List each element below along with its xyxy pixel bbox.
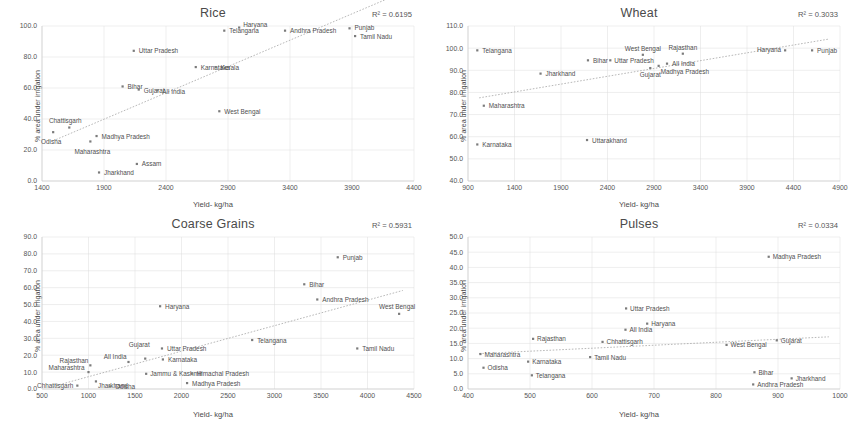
data-point[interactable] bbox=[144, 358, 146, 360]
data-point[interactable] bbox=[752, 383, 754, 385]
data-point[interactable] bbox=[646, 323, 648, 325]
data-point-label: Punjab bbox=[817, 47, 837, 55]
data-point[interactable] bbox=[122, 85, 124, 87]
x-tick-label: 900 bbox=[462, 184, 474, 191]
x-tick-label: 4400 bbox=[406, 184, 421, 191]
data-point[interactable] bbox=[89, 140, 91, 142]
x-tick-label: 2400 bbox=[600, 184, 615, 191]
data-point[interactable] bbox=[791, 377, 793, 379]
data-point[interactable] bbox=[133, 50, 135, 52]
data-point[interactable] bbox=[98, 171, 100, 173]
data-point[interactable] bbox=[223, 30, 225, 32]
data-point[interactable] bbox=[136, 163, 138, 165]
data-point[interactable] bbox=[284, 30, 286, 32]
data-point[interactable] bbox=[479, 353, 481, 355]
x-axis-label-rice: Yield- kg/ha bbox=[0, 200, 426, 209]
data-point[interactable] bbox=[532, 338, 534, 340]
data-point[interactable] bbox=[624, 329, 626, 331]
data-point[interactable] bbox=[218, 110, 220, 112]
data-point[interactable] bbox=[398, 313, 400, 315]
data-point[interactable] bbox=[476, 143, 478, 145]
data-point[interactable] bbox=[531, 374, 533, 376]
data-point[interactable] bbox=[348, 27, 350, 29]
data-point[interactable] bbox=[725, 344, 727, 346]
data-point[interactable] bbox=[354, 35, 356, 37]
data-point[interactable] bbox=[238, 26, 240, 28]
data-point[interactable] bbox=[161, 347, 163, 349]
x-tick-label: 2900 bbox=[220, 184, 235, 191]
data-point[interactable] bbox=[159, 305, 161, 307]
data-point[interactable] bbox=[215, 66, 217, 68]
plot-area-coarse-grains: 0.010.020.030.040.050.060.070.080.090.05… bbox=[42, 237, 414, 389]
data-point[interactable] bbox=[589, 356, 591, 358]
x-tick-label: 1500 bbox=[127, 392, 142, 399]
data-point[interactable] bbox=[476, 49, 478, 51]
data-point-label: All India bbox=[629, 326, 652, 333]
data-point[interactable] bbox=[666, 63, 668, 65]
data-point[interactable] bbox=[337, 256, 339, 258]
x-tick-label: 3400 bbox=[693, 184, 708, 191]
data-point-label: Odisha bbox=[41, 138, 62, 145]
data-point[interactable] bbox=[95, 135, 97, 137]
x-tick-label: 3500 bbox=[313, 392, 328, 399]
data-point[interactable] bbox=[483, 105, 485, 107]
data-point[interactable] bbox=[127, 361, 129, 363]
data-point[interactable] bbox=[784, 49, 786, 51]
data-point[interactable] bbox=[303, 283, 305, 285]
y-tick-label: 35.0 bbox=[450, 279, 464, 286]
data-point-label: West Bengal bbox=[224, 108, 260, 116]
data-point[interactable] bbox=[527, 361, 529, 363]
data-point[interactable] bbox=[89, 364, 91, 366]
data-point[interactable] bbox=[649, 67, 651, 69]
data-point[interactable] bbox=[776, 339, 778, 341]
data-point-label: Karnataka bbox=[532, 358, 562, 365]
data-point[interactable] bbox=[52, 131, 54, 133]
data-point-label: Andhra Pradesh bbox=[290, 27, 337, 34]
data-point[interactable] bbox=[109, 385, 111, 387]
data-point-label: Uttar Pradesh bbox=[614, 57, 654, 64]
data-point[interactable] bbox=[658, 65, 660, 67]
data-point[interactable] bbox=[625, 307, 627, 309]
data-point[interactable] bbox=[138, 88, 140, 90]
data-point[interactable] bbox=[191, 373, 193, 375]
data-point-label: Haryana bbox=[165, 303, 190, 311]
x-tick-label: 2000 bbox=[174, 392, 189, 399]
data-point[interactable] bbox=[95, 380, 97, 382]
data-point[interactable] bbox=[601, 341, 603, 343]
data-point[interactable] bbox=[145, 373, 147, 375]
data-point[interactable] bbox=[609, 59, 611, 61]
data-point-label: Bihar bbox=[309, 281, 325, 288]
data-point-label: All India bbox=[162, 88, 185, 95]
data-point[interactable] bbox=[162, 358, 164, 360]
data-point[interactable] bbox=[76, 385, 78, 387]
data-point[interactable] bbox=[156, 89, 158, 91]
y-tick-label: 20.0 bbox=[24, 146, 38, 153]
chart-title-rice: Rice bbox=[0, 6, 426, 20]
data-point[interactable] bbox=[539, 73, 541, 75]
data-point-label: Bihar bbox=[128, 83, 144, 90]
data-point[interactable] bbox=[186, 382, 188, 384]
data-point[interactable] bbox=[768, 256, 770, 258]
chart-grid: Rice R² = 0.6195 % area under irrigation… bbox=[0, 0, 852, 421]
y-tick-label: 20.0 bbox=[24, 352, 38, 359]
data-point-label: Telangana bbox=[482, 47, 512, 55]
data-point[interactable] bbox=[68, 126, 70, 128]
y-tick-label: 60.0 bbox=[24, 84, 38, 91]
data-point[interactable] bbox=[682, 53, 684, 55]
data-point[interactable] bbox=[642, 54, 644, 56]
data-point-label: All India bbox=[672, 60, 695, 67]
data-point[interactable] bbox=[195, 66, 197, 68]
data-point[interactable] bbox=[316, 298, 318, 300]
data-point[interactable] bbox=[811, 49, 813, 51]
data-point[interactable] bbox=[87, 371, 89, 373]
data-point[interactable] bbox=[356, 347, 358, 349]
y-tick-label: 60.0 bbox=[450, 133, 464, 140]
data-point-label: Jharkhand bbox=[104, 169, 134, 176]
data-point[interactable] bbox=[753, 371, 755, 373]
data-point[interactable] bbox=[587, 59, 589, 61]
r2-annotation-pulses: R² = 0.0334 bbox=[798, 221, 838, 230]
data-point[interactable] bbox=[586, 139, 588, 141]
data-point[interactable] bbox=[251, 339, 253, 341]
data-point-label: West Bengal bbox=[625, 45, 661, 53]
data-point[interactable] bbox=[482, 367, 484, 369]
